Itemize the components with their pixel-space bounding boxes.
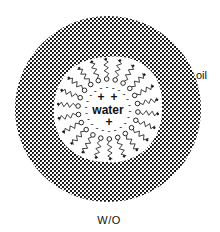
negative-charge: - — [118, 85, 121, 95]
surfactant-head — [128, 86, 133, 91]
surfactant-head — [129, 125, 134, 130]
surfactant-head — [135, 101, 140, 106]
surfactant-head — [76, 104, 81, 109]
negative-charge: - — [119, 122, 122, 132]
negative-charge: - — [94, 86, 97, 96]
surfactant-head — [78, 95, 83, 100]
negative-charge: - — [127, 112, 130, 122]
surfactant-head — [132, 93, 137, 98]
surfactant-head — [107, 137, 112, 142]
surfactant-head — [91, 133, 96, 138]
surfactant-head — [76, 112, 81, 117]
negative-charge: - — [95, 123, 98, 133]
negative-charge: - — [91, 119, 94, 129]
surfactant-head — [136, 110, 141, 115]
oil-label: oil — [196, 69, 207, 81]
surfactant-head — [123, 131, 128, 136]
surfactant-head — [104, 77, 109, 82]
surfactant-head — [99, 136, 104, 141]
caption-wo: W/O — [0, 214, 218, 226]
surfactant-head — [113, 78, 118, 83]
positive-charge: + — [97, 90, 104, 104]
surfactant-head — [84, 127, 89, 132]
positive-charge: + — [105, 115, 112, 129]
surfactant-head — [79, 120, 84, 125]
negative-charge: - — [123, 89, 126, 99]
surfactant-head — [88, 82, 93, 87]
surfactant-head — [121, 81, 126, 86]
water-label: water — [91, 103, 124, 117]
negative-charge: - — [128, 100, 131, 110]
surfactant-head — [82, 88, 87, 93]
positive-charge: + — [110, 90, 117, 104]
negative-charge: - — [114, 125, 117, 135]
surfactant-head — [115, 135, 120, 140]
negative-charge: - — [124, 118, 127, 128]
surfactant-head — [134, 118, 139, 123]
negative-charge: - — [101, 125, 104, 135]
micelle-diagram: ----------------------+++ water — [0, 0, 220, 232]
negative-charge: - — [106, 82, 109, 92]
negative-charge: - — [89, 90, 92, 100]
